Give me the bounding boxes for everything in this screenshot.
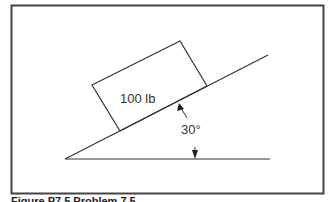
block-weight-label: 100 lb bbox=[120, 91, 155, 106]
angle-label: 30° bbox=[181, 122, 201, 137]
arrowhead-up-icon bbox=[177, 103, 184, 111]
arrowhead-down-icon bbox=[192, 150, 198, 159]
figure-frame bbox=[12, 6, 324, 194]
block-rectangle bbox=[92, 41, 207, 131]
figure-caption: Figure P7.5 Problem 7.5 bbox=[11, 196, 136, 202]
diagram-canvas: 100 lb 30° bbox=[0, 0, 332, 202]
